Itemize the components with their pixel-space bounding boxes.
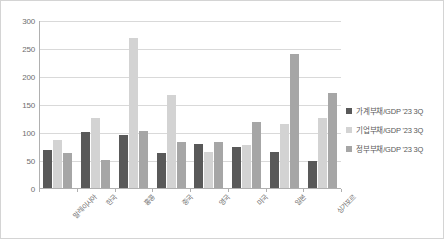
y-tick-label: 200 (22, 73, 35, 82)
y-axis: 050100150200250300 (1, 21, 35, 189)
x-tick (341, 189, 342, 192)
bar[interactable] (91, 118, 100, 188)
bar[interactable] (204, 152, 213, 188)
x-tick-label: 말레이시아 (71, 192, 99, 220)
legend-item[interactable]: 정부부채/GDP '23 3Q (346, 139, 444, 158)
legend-label: 기업부채/GDP '23 3Q (356, 124, 423, 135)
bar[interactable] (167, 95, 176, 188)
bar[interactable] (139, 131, 148, 188)
plot-area (39, 21, 341, 189)
bar[interactable] (232, 147, 241, 188)
y-tick-label: 0 (31, 185, 35, 194)
x-tick-label: 영국 (217, 192, 232, 207)
legend-swatch-government (346, 146, 352, 152)
bar-group (266, 20, 304, 188)
bar[interactable] (101, 160, 110, 188)
legend-label: 가계부채/GDP '23 3Q (356, 105, 423, 116)
x-axis: 말레이시아한국홍콩중국영국미국일본싱가포르 (39, 190, 341, 238)
y-tick-label: 150 (22, 101, 35, 110)
legend-item[interactable]: 기업부채/GDP '23 3Q (346, 120, 444, 139)
x-tick-label: 일본 (292, 192, 307, 207)
bar-group (228, 20, 266, 188)
bar[interactable] (157, 153, 166, 188)
bar[interactable] (318, 118, 327, 188)
legend-item[interactable]: 가계부채/GDP '23 3Q (346, 101, 444, 120)
bar-group (115, 20, 153, 188)
legend-swatch-household (346, 108, 352, 114)
legend-label: 정부부채/GDP '23 3Q (356, 143, 423, 154)
chart-container: 050100150200250300 말레이시아한국홍콩중국영국미국일본싱가포르… (0, 0, 444, 239)
y-tick-label: 50 (27, 157, 36, 166)
bar[interactable] (290, 54, 299, 188)
bar[interactable] (63, 153, 72, 188)
bar[interactable] (53, 140, 62, 188)
bar[interactable] (328, 93, 337, 188)
bar[interactable] (242, 145, 251, 188)
x-tick-label: 중국 (179, 192, 194, 207)
bar-group (152, 20, 190, 188)
bar[interactable] (308, 161, 317, 188)
y-tick-label: 300 (22, 17, 35, 26)
bar[interactable] (177, 142, 186, 188)
x-tick-label: 한국 (104, 192, 119, 207)
chart-legend: 가계부채/GDP '23 3Q기업부채/GDP '23 3Q정부부채/GDP '… (346, 101, 444, 158)
bar[interactable] (252, 122, 261, 188)
bar[interactable] (43, 150, 52, 188)
bars-layer (39, 21, 341, 189)
bar[interactable] (129, 38, 138, 188)
bar[interactable] (214, 142, 223, 188)
y-tick-label: 100 (22, 129, 35, 138)
bar[interactable] (81, 132, 90, 188)
bar[interactable] (280, 124, 289, 188)
bar-group (77, 20, 115, 188)
bar-group (39, 20, 77, 188)
x-tick-label: 싱가포르 (334, 192, 358, 216)
x-tick-label: 홍콩 (141, 192, 156, 207)
bar[interactable] (119, 135, 128, 188)
legend-swatch-corporate (346, 127, 352, 133)
bar[interactable] (194, 144, 203, 188)
bar[interactable] (270, 152, 279, 188)
bar-group (190, 20, 228, 188)
bar-group (303, 20, 341, 188)
x-tick-label: 미국 (255, 192, 270, 207)
y-tick-label: 250 (22, 45, 35, 54)
